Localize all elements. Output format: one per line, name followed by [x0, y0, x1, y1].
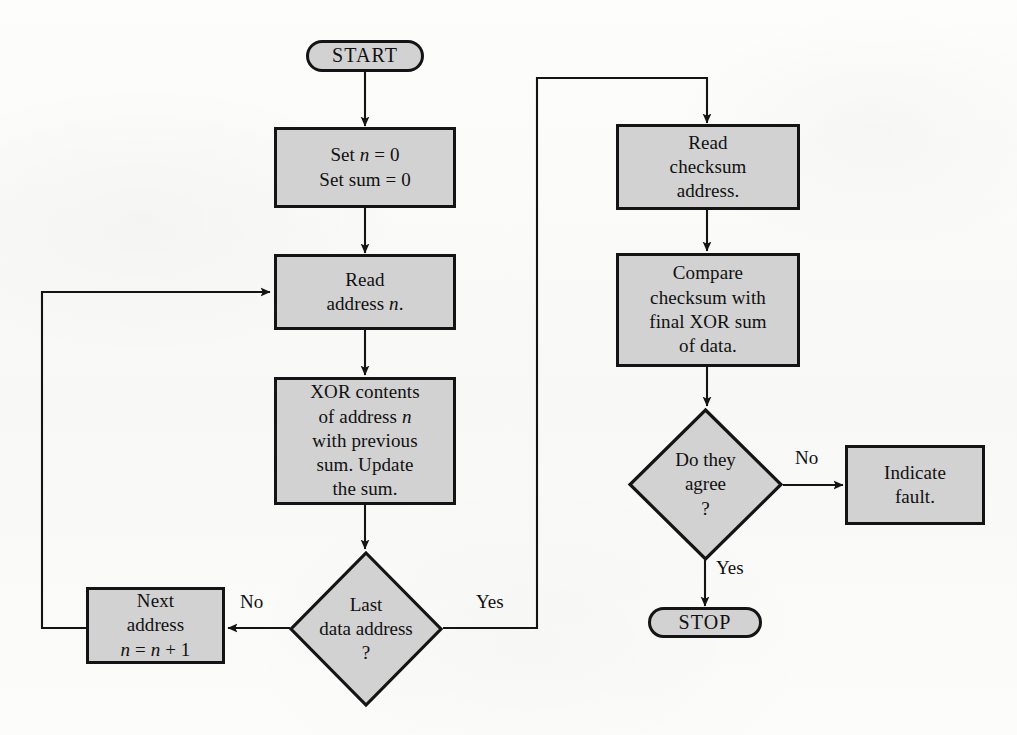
- node-do-they-agree[interactable]: Do they agree ?: [627, 407, 784, 562]
- node-start[interactable]: START: [306, 40, 424, 72]
- node-xor-line5: the sum.: [332, 478, 397, 499]
- node-xor-line2: of address n: [318, 406, 411, 427]
- node-xor-line3: with previous: [312, 430, 417, 451]
- node-read-address-line1: Read: [345, 269, 384, 290]
- node-compare-line2: checksum with: [650, 287, 766, 308]
- node-last-data-address[interactable]: Last data address ?: [288, 550, 444, 708]
- node-stop-label: STOP: [651, 610, 759, 636]
- flowchart-canvas: Next address --> up and over to Read che…: [0, 0, 1017, 735]
- node-read-address-line2: address n.: [326, 293, 403, 314]
- node-initialize[interactable]: Set n = 0 Set sum = 0: [274, 127, 456, 208]
- node-indicate-fault-line1: Indicate: [884, 462, 946, 483]
- node-last-data-address-line1: Last: [350, 594, 383, 615]
- edge-label-agree-no: No: [795, 447, 818, 469]
- node-stop[interactable]: STOP: [648, 607, 762, 638]
- node-read-checksum-line2: checksum: [670, 156, 747, 177]
- node-next-address-line3: n = n + 1: [121, 639, 191, 660]
- edge-label-agree-yes: Yes: [716, 557, 744, 579]
- node-indicate-fault-line2: fault.: [895, 486, 935, 507]
- node-indicate-fault[interactable]: Indicate fault.: [845, 445, 985, 525]
- node-read-address[interactable]: Read address n.: [274, 254, 456, 330]
- node-initialize-line2: Set sum = 0: [319, 169, 411, 190]
- node-compare-line3: final XOR sum: [649, 311, 766, 332]
- node-next-address[interactable]: Next address n = n + 1: [86, 587, 225, 664]
- node-last-data-address-line2: data address: [319, 618, 412, 639]
- node-next-address-line1: Next: [137, 590, 174, 611]
- node-xor-line1: XOR contents: [310, 381, 419, 402]
- edge-next-address-loop-back: [42, 292, 270, 628]
- node-xor-line4: sum. Update: [316, 454, 413, 475]
- node-xor-contents[interactable]: XOR contents of address n with previous …: [274, 377, 456, 505]
- node-start-label: START: [309, 43, 421, 69]
- node-read-checksum-line3: address.: [677, 180, 740, 201]
- node-read-checksum-address[interactable]: Read checksum address.: [616, 124, 800, 210]
- edge-label-last-address-yes: Yes: [476, 591, 504, 613]
- node-do-they-agree-line3: ?: [701, 498, 709, 519]
- edge-label-last-address-no: No: [240, 591, 263, 613]
- node-initialize-line1: Set n = 0: [330, 144, 399, 165]
- node-compare-line1: Compare: [673, 262, 743, 283]
- node-do-they-agree-line1: Do they: [675, 449, 736, 470]
- node-do-they-agree-line2: agree: [685, 473, 726, 494]
- node-compare-line4: of data.: [679, 335, 737, 356]
- node-compare-checksum[interactable]: Compare checksum with final XOR sum of d…: [616, 253, 800, 367]
- node-read-checksum-line1: Read: [688, 132, 727, 153]
- node-last-data-address-line3: ?: [362, 642, 370, 663]
- node-next-address-line2: address: [127, 614, 185, 635]
